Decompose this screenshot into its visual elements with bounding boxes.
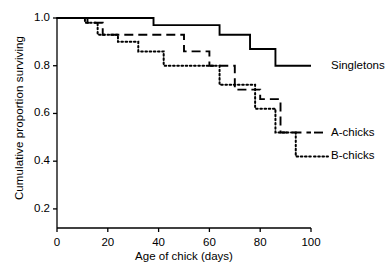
- series-lines: [57, 18, 311, 156]
- legend-line-samples: [314, 133, 328, 157]
- x-tick-label: 100: [291, 237, 331, 249]
- x-tick-label: 80: [240, 237, 280, 249]
- x-axis-label: Age of chick (days): [57, 250, 311, 262]
- y-tick-label: 0.8: [16, 60, 50, 72]
- y-tick-label: 1.0: [16, 12, 50, 24]
- series-line-a-chicks: [57, 18, 311, 133]
- x-tick-label: 20: [88, 237, 128, 249]
- x-tick-label: 60: [189, 237, 229, 249]
- y-tick-label: 0.2: [16, 203, 50, 215]
- y-tick-label: 0.6: [16, 107, 50, 119]
- legend-label-b-chicks: B-chicks: [331, 150, 374, 162]
- x-tick-label: 0: [37, 237, 77, 249]
- x-tick-label: 40: [139, 237, 179, 249]
- legend-label-singletons: Singletons: [331, 60, 385, 72]
- legend-label-a-chicks: A-chicks: [331, 127, 374, 139]
- series-line-singletons: [57, 18, 311, 66]
- y-tick-label: 0.4: [16, 155, 50, 167]
